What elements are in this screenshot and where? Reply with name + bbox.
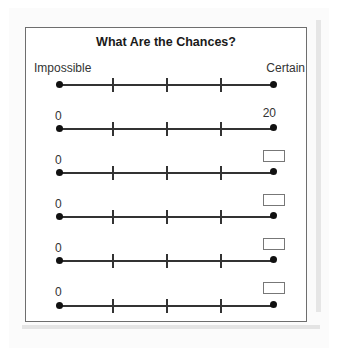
left-label: 0	[55, 241, 62, 255]
left-label: 0	[55, 197, 62, 211]
tick-mark	[112, 299, 114, 313]
right-label: 20	[263, 106, 276, 120]
tick-mark	[112, 122, 114, 136]
number-line-row-1: Impossible Certain	[0, 58, 339, 102]
tick-mark	[112, 254, 114, 268]
tick-mark	[220, 210, 222, 224]
start-dot	[56, 213, 63, 220]
panel-shadow-bottom	[22, 325, 320, 329]
number-line-row-5: 0	[0, 234, 339, 278]
tick-mark	[166, 78, 168, 92]
tick-mark	[220, 78, 222, 92]
end-dot	[270, 256, 277, 263]
tick-mark	[112, 78, 114, 92]
tick-mark	[166, 122, 168, 136]
left-label: 0	[55, 109, 62, 123]
tick-mark	[220, 166, 222, 180]
left-label: Impossible	[34, 61, 91, 75]
right-label: Certain	[266, 61, 305, 75]
number-line-row-2: 0 20	[0, 102, 339, 146]
tick-mark	[166, 299, 168, 313]
tick-mark	[166, 254, 168, 268]
tick-mark	[220, 299, 222, 313]
start-dot	[56, 81, 63, 88]
start-dot	[56, 125, 63, 132]
left-label: 0	[55, 285, 62, 299]
left-label: 0	[55, 153, 62, 167]
tick-mark	[220, 254, 222, 268]
start-dot	[56, 257, 63, 264]
answer-box[interactable]	[263, 150, 285, 162]
end-dot	[270, 168, 277, 175]
end-dot	[270, 212, 277, 219]
answer-box[interactable]	[263, 194, 285, 206]
number-line-row-3: 0	[0, 146, 339, 190]
answer-box[interactable]	[263, 238, 285, 250]
end-dot	[270, 301, 277, 308]
tick-mark	[112, 166, 114, 180]
tick-mark	[112, 210, 114, 224]
start-dot	[56, 169, 63, 176]
start-dot	[56, 302, 63, 309]
answer-box[interactable]	[263, 282, 285, 294]
tick-mark	[166, 210, 168, 224]
number-line-row-6: 0	[0, 278, 339, 322]
worksheet-title: What Are the Chances?	[25, 35, 307, 49]
tick-mark	[220, 122, 222, 136]
end-dot	[270, 124, 277, 131]
number-line-row-4: 0	[0, 190, 339, 234]
tick-mark	[166, 166, 168, 180]
end-dot	[270, 81, 277, 88]
